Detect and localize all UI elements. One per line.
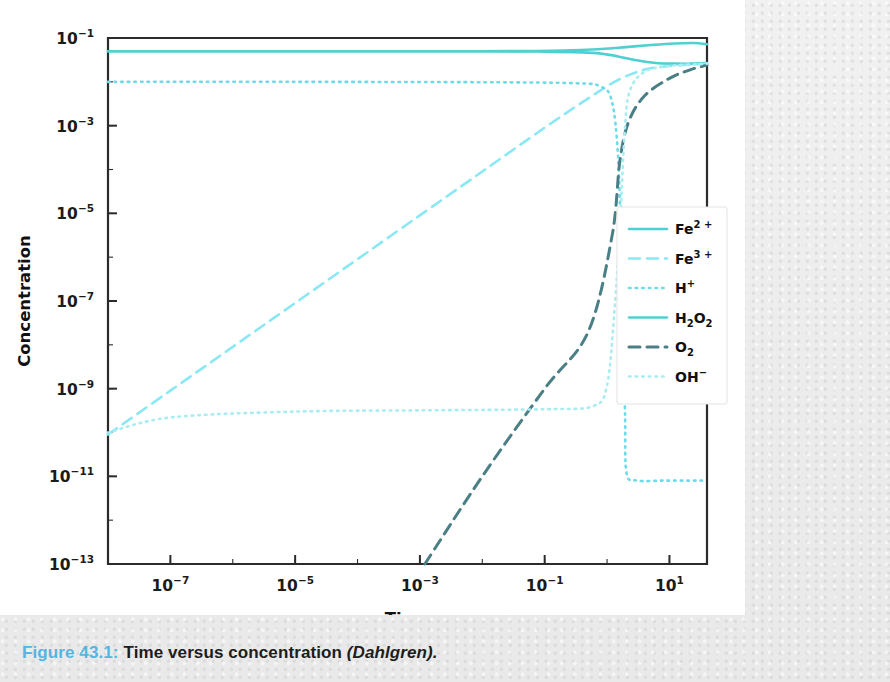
tick-label: 10−3 [401, 574, 439, 595]
tick-label: 10−7 [152, 574, 190, 595]
figure-caption: Figure 43.1: Time versus concentration (… [22, 643, 438, 663]
concentration-vs-time-chart: 10−710−510−310−110110−110−310−510−710−91… [0, 0, 745, 615]
tick-label: 10−13 [49, 553, 94, 574]
tick-label: 10−9 [56, 378, 94, 399]
caption-text: Time versus concentration [119, 643, 347, 662]
figure-number: Figure 43.1: [22, 643, 119, 662]
tick-label: 10−11 [49, 465, 94, 486]
tick-label: 10−7 [56, 290, 94, 311]
tick-label: 10−5 [56, 202, 94, 223]
chart-svg: 10−710−510−310−110110−110−310−510−710−91… [0, 0, 745, 615]
caption-source: (Dahlgren). [347, 643, 438, 662]
tick-label: 10−5 [276, 574, 314, 595]
series-line-fe2 [108, 51, 707, 64]
tick-label: 10−1 [526, 574, 564, 595]
legend-box [617, 207, 727, 404]
tick-label: 10−1 [56, 27, 94, 48]
series-line-h2o2 [108, 43, 707, 51]
y-axis-title: Concentration [15, 235, 34, 367]
tick-label: 101 [655, 574, 684, 595]
caption-band: Figure 43.1: Time versus concentration (… [0, 615, 890, 682]
figure-panel: 10−710−510−310−110110−110−310−510−710−91… [0, 0, 745, 615]
tick-label: 10−3 [56, 115, 94, 136]
